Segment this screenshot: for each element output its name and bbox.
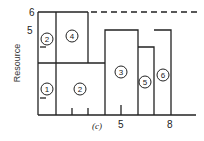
resource-diagram: 6 5 5 8 1 2 2 4 3 5 6: [0, 0, 204, 141]
task-label-1: 1: [45, 85, 50, 94]
task-label-4: 4: [70, 32, 75, 41]
task-label-2b: 2: [78, 85, 83, 94]
task-label-3: 3: [119, 68, 124, 77]
y-tick-6: 6: [29, 7, 35, 18]
x-tick-8: 8: [167, 119, 173, 130]
y-tick-5: 5: [27, 25, 33, 36]
task-label-5: 5: [143, 78, 148, 87]
x-tick-5: 5: [118, 119, 124, 130]
task-label-6: 6: [161, 71, 166, 80]
task-label-2a: 2: [45, 35, 50, 44]
